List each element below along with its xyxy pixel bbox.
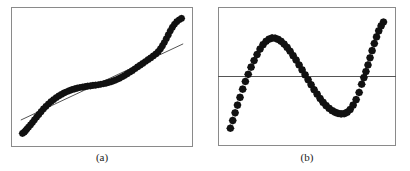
- panel-a-caption: (a): [11, 151, 193, 163]
- data-point: [247, 63, 255, 71]
- data-point: [358, 80, 366, 88]
- data-point: [362, 68, 370, 76]
- data-point: [239, 85, 247, 93]
- panel-a-plot: [11, 7, 193, 147]
- panel-b: [218, 7, 396, 146]
- data-point: [380, 18, 388, 26]
- data-point: [226, 124, 234, 132]
- data-point: [352, 96, 360, 104]
- data-point: [355, 89, 363, 97]
- panel-b-plot: [218, 7, 396, 146]
- series-observations: [19, 15, 185, 137]
- data-point: [370, 40, 378, 48]
- data-point: [366, 54, 374, 62]
- data-point: [244, 70, 252, 78]
- figure: (a) (b): [0, 0, 410, 171]
- panel-a: [11, 7, 193, 147]
- data-point: [234, 101, 242, 109]
- data-point: [231, 109, 239, 117]
- data-point: [236, 94, 244, 102]
- data-point: [368, 47, 376, 55]
- panel-b-caption: (b): [218, 151, 396, 163]
- data-point: [178, 15, 185, 22]
- series-residuals: [226, 18, 387, 132]
- data-point: [364, 61, 372, 69]
- data-point: [241, 78, 249, 86]
- data-point: [229, 117, 237, 125]
